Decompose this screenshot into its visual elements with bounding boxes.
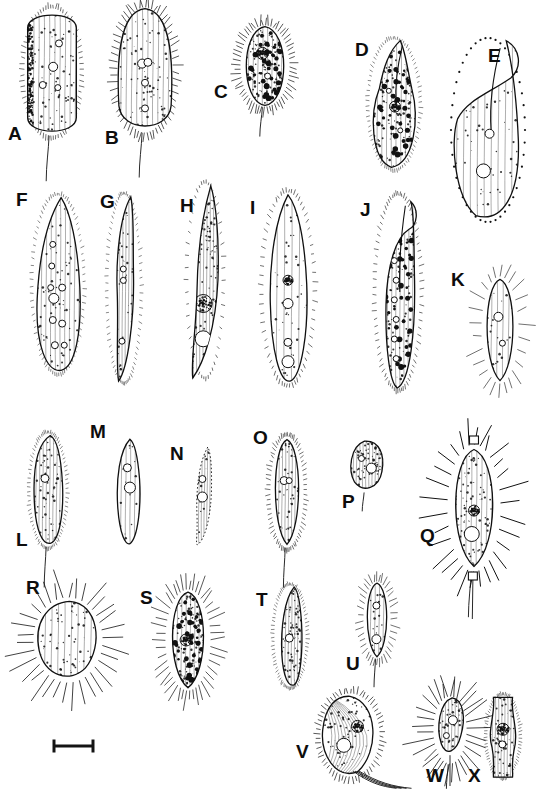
panel-label-o: O bbox=[253, 428, 268, 447]
panel-label-f: F bbox=[16, 190, 28, 209]
illustration-plate: ABCDEFGHIJKLMNOPQRSTUVWX bbox=[0, 0, 543, 802]
panel-label-p: P bbox=[342, 492, 355, 511]
panel-label-c: C bbox=[214, 82, 228, 101]
specimen-v bbox=[293, 666, 407, 802]
panel-label-q: Q bbox=[420, 526, 435, 545]
panel-label-j: J bbox=[360, 200, 371, 219]
panel-label-n: N bbox=[170, 444, 184, 463]
panel-label-w: W bbox=[426, 766, 444, 785]
specimen-g bbox=[81, 167, 167, 409]
panel-label-k: K bbox=[451, 270, 465, 289]
panel-label-g: G bbox=[100, 192, 115, 211]
panel-label-r: R bbox=[26, 578, 40, 597]
panel-label-e: E bbox=[488, 46, 501, 65]
panel-label-u: U bbox=[346, 654, 360, 673]
panel-label-s: S bbox=[140, 588, 153, 607]
panel-label-i: I bbox=[250, 198, 255, 217]
panel-label-a: A bbox=[8, 124, 22, 143]
scale-bar bbox=[51, 734, 111, 762]
specimen-k bbox=[454, 249, 543, 411]
specimen-s bbox=[138, 562, 238, 718]
panel-label-v: V bbox=[296, 742, 309, 761]
specimen-p bbox=[321, 413, 411, 519]
specimen-n bbox=[162, 419, 244, 571]
specimen-c bbox=[213, 0, 317, 134]
panel-label-d: D bbox=[355, 40, 369, 59]
panel-label-m: M bbox=[90, 422, 106, 441]
panel-label-x: X bbox=[468, 766, 481, 785]
specimen-q bbox=[420, 417, 528, 599]
specimen-r bbox=[6, 570, 130, 710]
panel-label-l: L bbox=[16, 530, 28, 549]
panel-label-h: H bbox=[180, 196, 194, 215]
panel-label-b: B bbox=[105, 128, 119, 147]
panel-label-t: T bbox=[256, 590, 268, 609]
